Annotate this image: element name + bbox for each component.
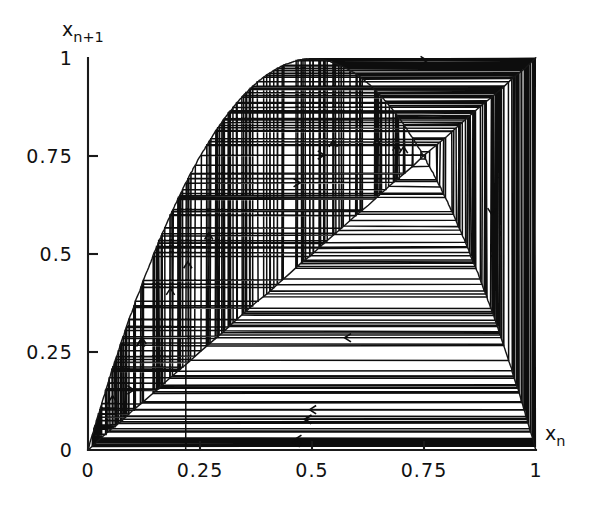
y-tick-label-0.5: 0.5 [39, 243, 73, 265]
cobweb-diagram-figure: 00.250.50.75100.250.50.751 xn+1 xn [0, 0, 596, 524]
x-tick-label-0.5: 0.5 [295, 459, 329, 481]
x-tick-label-1: 1 [529, 459, 542, 481]
y-tick-label-0.75: 0.75 [26, 145, 73, 167]
y-tick-label-0: 0 [60, 439, 73, 461]
x-axis-title-base: x [545, 422, 556, 444]
y-axis-title-base: x [62, 18, 73, 40]
y-tick-label-0.25: 0.25 [26, 341, 73, 363]
y-tick-label-1: 1 [60, 47, 73, 69]
x-tick-label-0: 0 [81, 459, 94, 481]
x-tick-label-0.75: 0.75 [401, 459, 448, 481]
y-axis-title-subscript: n+1 [73, 29, 104, 45]
x-tick-label-0.25: 0.25 [177, 459, 224, 481]
x-axis-title-subscript: n [556, 433, 565, 449]
